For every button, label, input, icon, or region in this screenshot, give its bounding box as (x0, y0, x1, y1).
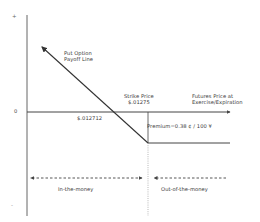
premium-label: Premium=0.38 ¢ / 100 ¥ (147, 123, 212, 129)
y-axis-minus-label: - (11, 202, 13, 208)
strike-price-label: Strike Price $.01275 (124, 93, 154, 106)
payoff-line-label: Put Option Payoff Line (64, 50, 93, 63)
strike-price-value: $.01275 (124, 99, 154, 105)
out-of-the-money-label: Out-of-the-money (161, 186, 208, 192)
put-option-payoff-diagram: + 0 - Put Option Payoff Line Strike Pric… (0, 0, 260, 222)
payoff-line-label-line2: Payoff Line (64, 56, 93, 62)
x-axis-label: Futures Price at Exercise/Expiration (192, 93, 243, 106)
x-axis-label-line2: Exercise/Expiration (192, 99, 243, 105)
y-axis-zero-label: 0 (14, 108, 17, 114)
y-axis-plus-label: + (12, 13, 17, 19)
diagram-canvas (0, 0, 260, 222)
breakeven-price-label: $.012712 (77, 115, 102, 121)
in-the-money-arrow-tail (30, 176, 34, 179)
in-the-money-label: In-the-money (58, 186, 93, 192)
